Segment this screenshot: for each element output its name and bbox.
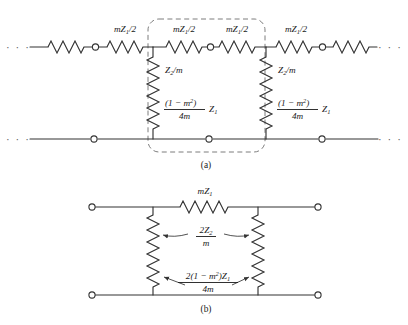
label-series-b-base: mZ — [198, 186, 211, 196]
label-series-a-1-div: /2 — [128, 24, 137, 34]
label-shunt-lower-b-den: 4m — [202, 284, 214, 294]
node-top-a-3 — [319, 44, 325, 50]
panel-b: mZ1 2Z2 m 2(1 − m2)Z1 4m (b) — [89, 186, 321, 315]
ellipsis-bottom-left: · · · — [6, 133, 31, 145]
circuit-diagram-svg: · · · · · · · · · · · · — [0, 0, 408, 325]
label-shunt-a-right-upper-div: /m — [285, 65, 296, 75]
svg-text:mZ1/2: mZ1/2 — [285, 24, 308, 35]
terminal-top-left-b — [89, 204, 95, 210]
resistor-top-a3 — [166, 41, 202, 53]
svg-text:Z2/m: Z2/m — [278, 65, 296, 76]
node-bottom-a-3 — [319, 136, 325, 142]
arrow-shunt-upper-right-b — [224, 234, 249, 236]
svg-text:2Z2: 2Z2 — [200, 225, 214, 236]
label-series-a-3-base: mZ — [226, 24, 239, 34]
label-shunt-a-left-lower-den: 4m — [179, 111, 191, 121]
resistor-top-a2 — [107, 41, 143, 53]
resistor-shunt-right-b — [252, 215, 264, 287]
ellipsis-bottom-right: · · · — [378, 133, 403, 145]
svg-text:(1 − m2): (1 − m2) — [278, 97, 309, 108]
label-series-a-2-base: mZ — [173, 24, 186, 34]
svg-text:Z1: Z1 — [322, 104, 330, 115]
arrow-shunt-lower-left-b — [164, 277, 185, 285]
arrow-shunt-upper-left-b — [163, 234, 188, 236]
label-series-b: mZ1 — [198, 186, 213, 197]
terminal-bottom-right-b — [315, 292, 321, 298]
node-top-a-1 — [92, 44, 98, 50]
label-shunt-a-right-lower-numclose: ) — [305, 98, 309, 108]
node-bottom-a-1 — [91, 136, 97, 142]
figure-container: · · · · · · · · · · · · — [0, 0, 408, 325]
label-series-a-2-div: /2 — [187, 24, 196, 34]
resistor-shunt-right-a — [260, 57, 272, 129]
label-shunt-upper-b-numsub: 2 — [209, 229, 213, 236]
label-series-a-1-base: mZ — [114, 24, 127, 34]
label-shunt-a-left-upper: Z2/m — [165, 65, 183, 76]
terminal-bottom-left-b — [89, 292, 95, 298]
dashed-section-boundary — [148, 19, 265, 152]
label-series-a-3-div: /2 — [240, 24, 249, 34]
resistor-top-a4 — [219, 41, 255, 53]
resistor-shunt-left-a — [147, 57, 159, 129]
label-series-a-2: mZ1/2 — [173, 24, 196, 35]
svg-text:mZ1: mZ1 — [198, 186, 213, 197]
label-shunt-lower-b-numsub: 1 — [227, 275, 230, 282]
resistor-shunt-left-b — [147, 215, 159, 287]
label-shunt-a-right-lower-numopen: (1 − m — [278, 98, 303, 108]
label-shunt-a-left-lower-tsub: 1 — [214, 108, 217, 115]
resistor-top-a1 — [48, 41, 84, 53]
label-series-a-1: mZ1/2 — [114, 24, 137, 35]
label-shunt-lower-b: 2(1 − m2)Z1 4m — [178, 270, 238, 294]
svg-text:mZ1/2: mZ1/2 — [114, 24, 137, 35]
arrow-shunt-lower-right-b — [232, 277, 249, 285]
label-shunt-a-right-lower-den: 4m — [292, 111, 304, 121]
label-series-a-4: mZ1/2 — [285, 24, 308, 35]
panel-a: · · · · · · · · · · · · — [6, 19, 403, 171]
svg-text:2(1 − m2)Z1: 2(1 − m2)Z1 — [186, 270, 230, 283]
terminal-top-right-b — [315, 204, 321, 210]
label-series-b-sub: 1 — [209, 190, 212, 197]
svg-text:Z1: Z1 — [209, 104, 217, 115]
label-series-a-3: mZ1/2 — [226, 24, 249, 35]
label-shunt-a-left-lower: (1 − m2) 4m Z1 — [164, 97, 217, 121]
ellipsis-top-left: · · · — [6, 41, 31, 53]
label-series-a-4-base: mZ — [285, 24, 298, 34]
label-shunt-a-left-lower-numopen: (1 − m — [165, 98, 190, 108]
label-shunt-upper-b: 2Z2 m — [196, 225, 216, 248]
caption-panel-a: (a) — [201, 160, 211, 171]
label-series-a-4-div: /2 — [299, 24, 308, 34]
resistor-top-a6 — [333, 41, 369, 53]
svg-text:Z2/m: Z2/m — [165, 65, 183, 76]
label-shunt-a-right-lower-tsub: 1 — [327, 108, 330, 115]
resistor-series-b — [180, 201, 228, 213]
label-shunt-a-right-upper: Z2/m — [278, 65, 296, 76]
ellipsis-top-right: · · · — [378, 41, 403, 53]
node-top-a-2 — [207, 44, 213, 50]
label-shunt-lower-b-numopen: 2(1 − m — [186, 271, 216, 281]
svg-text:(1 − m2): (1 − m2) — [165, 97, 196, 108]
label-shunt-a-right-lower: (1 − m2) 4m Z1 — [277, 97, 330, 121]
svg-text:mZ1/2: mZ1/2 — [173, 24, 196, 35]
label-shunt-upper-b-den: m — [203, 238, 210, 248]
node-bottom-a-2 — [206, 136, 212, 142]
svg-text:mZ1/2: mZ1/2 — [226, 24, 249, 35]
label-shunt-a-left-lower-numclose: ) — [192, 98, 196, 108]
caption-panel-b: (b) — [201, 304, 212, 315]
resistor-top-a5 — [276, 41, 312, 53]
label-shunt-a-left-upper-div: /m — [172, 65, 183, 75]
